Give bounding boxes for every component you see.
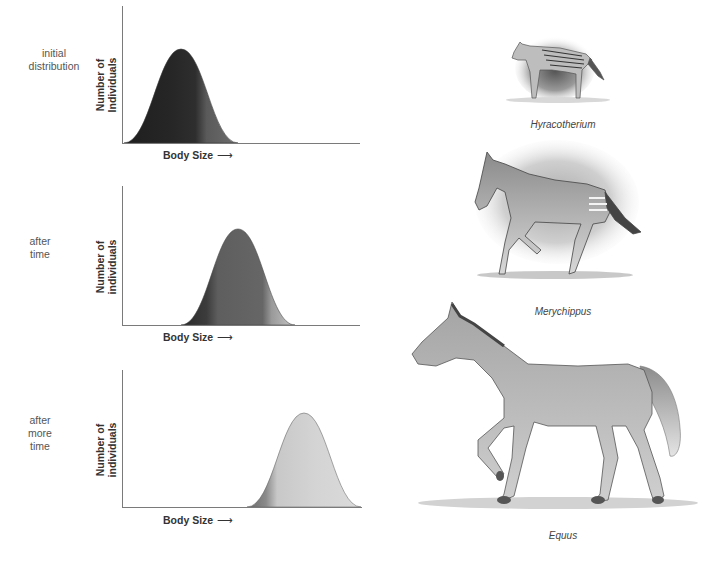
distribution-curve: [247, 413, 361, 507]
species-label: Equus: [483, 530, 643, 541]
equus-illustration: [408, 298, 708, 513]
merychippus-illustration: [465, 140, 650, 285]
hyracotherium-illustration: [500, 30, 620, 110]
species-label: Hyracotherium: [483, 119, 643, 130]
x-axis-label-text: Body Size: [163, 514, 213, 526]
right-arrow-icon: ⟶: [217, 514, 233, 526]
x-axis-label: Body Size⟶: [163, 514, 233, 526]
